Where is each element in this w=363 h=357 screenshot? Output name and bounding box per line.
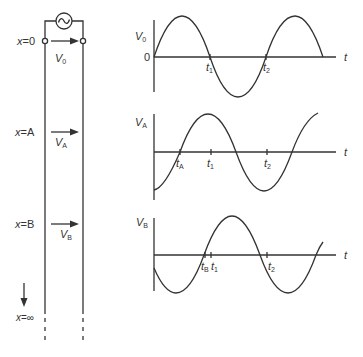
position-label-x0: x=0 [16, 35, 35, 47]
terminal-left [42, 38, 47, 43]
plot-v0 [154, 16, 336, 97]
arrowhead-down-icon [21, 298, 28, 307]
arrowhead-icon [70, 221, 79, 228]
source-wire-left [45, 21, 56, 41]
x-axis-label-t: t [344, 249, 348, 261]
voltage-label-va: VA [55, 136, 67, 149]
plot-vb [154, 216, 336, 293]
position-label-xinf: x=∞ [15, 312, 34, 323]
position-label-xb: x=B [14, 218, 34, 230]
tick-label-t2: t2 [263, 61, 270, 74]
tick-label-t1: t1 [211, 260, 218, 273]
arrowhead-icon [70, 129, 79, 136]
plot-va [154, 113, 336, 200]
arrowhead-icon [70, 38, 79, 45]
voltage-label-v0: V0 [55, 52, 66, 65]
y-axis-label-va: VA [135, 116, 147, 129]
voltage-label-vb: VB [60, 228, 72, 241]
y-axis-label-v0: V0 [135, 30, 146, 43]
origin-label: 0 [144, 51, 150, 63]
tick-label-t2: t2 [268, 260, 275, 273]
tick-label-t2: t2 [264, 157, 271, 170]
source-wire-right [72, 21, 83, 41]
position-label-xa: x=A [14, 126, 35, 138]
x-axis-label-t: t [344, 146, 348, 158]
tick-label-ta: tA [176, 157, 184, 170]
sine-glyph-icon [59, 19, 70, 24]
transmission-line-diagram: x=0 V0 x=A VA x=B VB x=∞ V0 0 t t1 t2 VA… [0, 0, 363, 357]
tick-label-t1: t1 [207, 157, 214, 170]
x-axis-label-t: t [344, 51, 348, 63]
tick-label-tb: tB [201, 260, 209, 273]
y-axis-label-vb: VB [136, 216, 148, 229]
terminal-right [80, 38, 85, 43]
